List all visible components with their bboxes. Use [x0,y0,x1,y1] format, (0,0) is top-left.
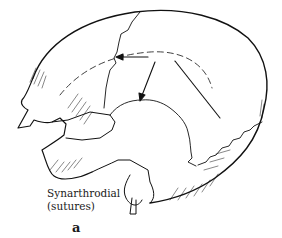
panel-label: a [72,220,80,235]
caption-line-2: (sutures) [47,200,120,213]
zygomatic-arch [52,112,115,140]
caption-line-1: Synarthrodial [47,187,120,200]
squamous-suture [110,100,196,166]
temporal-line [60,52,212,95]
skull-illustration [0,0,282,238]
mastoid [124,175,142,214]
lambdoid-suture [198,122,262,165]
suture-arrows [116,54,220,118]
shading-hatch [30,68,264,200]
cranium-outline [33,10,267,203]
figure-caption: Synarthrodial (sutures) [47,187,120,213]
